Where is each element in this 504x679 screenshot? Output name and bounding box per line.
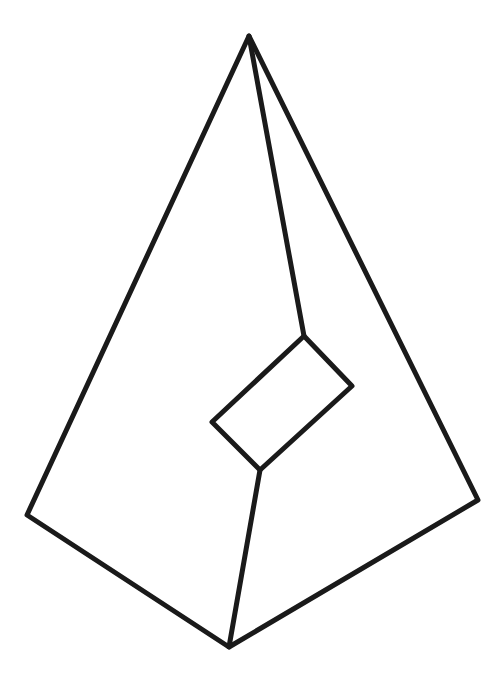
pyramid-outline bbox=[27, 36, 478, 647]
drawing-canvas bbox=[0, 0, 504, 679]
pyramid-diagram bbox=[0, 0, 504, 679]
rectangle-window bbox=[212, 336, 352, 470]
upper-ridge-line bbox=[249, 36, 304, 336]
lower-ridge-line bbox=[229, 470, 260, 647]
